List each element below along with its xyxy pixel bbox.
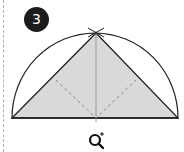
- folded-triangle: [12, 33, 178, 118]
- zoom-in-button[interactable]: [87, 130, 107, 150]
- zoom-in-icon: [87, 130, 107, 150]
